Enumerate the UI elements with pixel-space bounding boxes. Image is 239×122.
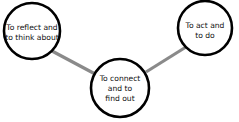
connector-reflect-to-connect [52, 51, 97, 75]
node-reflect-line-1: To reflect and [5, 23, 58, 32]
node-connect-line-1: To connect [99, 74, 141, 83]
node-connect: To connect and to find out [91, 59, 149, 117]
node-reflect: To reflect and to think about [4, 3, 60, 59]
node-reflect-line-2: to think about [5, 33, 58, 42]
node-act: To act and to do [178, 1, 232, 55]
node-act-line-1: To act and [185, 21, 225, 30]
connector-connect-to-act [146, 47, 186, 72]
cycle-diagram: To reflect and to think about To act and… [0, 0, 239, 122]
node-connect-line-2: and to [108, 84, 133, 93]
node-act-line-2: to do [195, 31, 215, 40]
node-connect-line-3: find out [105, 94, 134, 103]
